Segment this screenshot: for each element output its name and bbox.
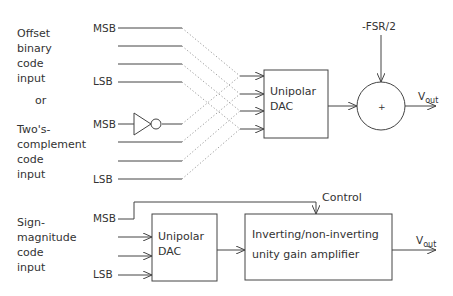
twos-complement-label: Two's- complement code input <box>16 123 87 181</box>
bottom-output-label: Vout <box>416 234 436 249</box>
svg-text:Inverting/non-inverting: Inverting/non-inverting <box>252 228 379 241</box>
dac-code-conversion-diagram: Offset binary code input or Two's- compl… <box>0 0 453 296</box>
msb-label-twos: MSB <box>93 118 116 130</box>
offset-input-label: -FSR/2 <box>362 20 396 32</box>
svg-text:Unipolar: Unipolar <box>158 230 205 243</box>
inverting-amplifier-block: Inverting/non-inverting unity gain ampli… <box>245 214 392 280</box>
svg-text:Offset: Offset <box>17 27 51 40</box>
lsb-label-offset: LSB <box>93 75 113 87</box>
msb-label-sign: MSB <box>93 212 116 224</box>
svg-text:+: + <box>378 102 386 112</box>
or-label: or <box>35 94 47 107</box>
msb-label-offset: MSB <box>93 22 116 34</box>
svg-text:Unipolar: Unipolar <box>270 85 317 98</box>
svg-text:input: input <box>17 168 46 181</box>
summing-junction: + <box>357 82 405 130</box>
svg-text:code: code <box>17 57 44 70</box>
twos-complement-bit-lines <box>118 124 182 179</box>
svg-text:code: code <box>17 246 44 259</box>
svg-text:Sign-: Sign- <box>17 216 45 229</box>
svg-text:magnitude: magnitude <box>17 231 77 244</box>
svg-text:binary: binary <box>17 42 52 55</box>
lsb-label-twos: LSB <box>93 173 113 185</box>
svg-text:DAC: DAC <box>270 100 294 113</box>
inverter-icon <box>134 113 161 135</box>
top-dac-input-arrows <box>240 76 264 129</box>
offset-binary-label: Offset binary code input <box>17 27 52 85</box>
top-unipolar-dac-block: Unipolar DAC <box>264 70 328 138</box>
offset-binary-bit-lines <box>118 28 182 82</box>
svg-text:input: input <box>17 72 46 85</box>
svg-text:DAC: DAC <box>158 245 182 258</box>
svg-text:Two's-: Two's- <box>16 123 50 136</box>
lsb-label-sign: LSB <box>93 268 113 280</box>
bottom-unipolar-dac-block: Unipolar DAC <box>152 214 217 281</box>
svg-text:code: code <box>17 153 44 166</box>
top-output-label: Vout <box>418 90 438 105</box>
dotted-connection-lines <box>182 28 240 179</box>
svg-text:unity gain amplifier: unity gain amplifier <box>252 248 360 261</box>
svg-text:input: input <box>17 261 46 274</box>
sign-magnitude-label: Sign- magnitude code input <box>17 216 77 274</box>
svg-text:complement: complement <box>17 138 87 151</box>
bottom-dac-input-arrows <box>118 237 152 275</box>
control-label: Control <box>322 191 362 204</box>
